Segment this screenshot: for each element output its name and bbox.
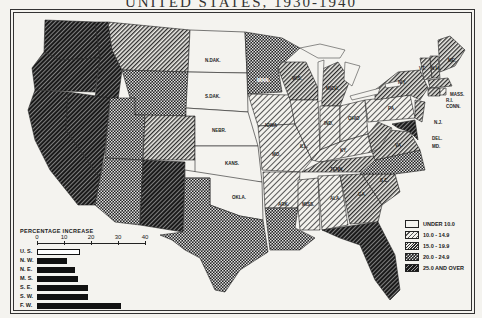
bar-label: N. E.: [20, 266, 32, 273]
legend-swatch: [405, 231, 419, 239]
label-minn: MINN.: [257, 78, 270, 83]
label-ga: GA.: [358, 192, 366, 197]
label-del: DEL.: [432, 136, 442, 141]
legend-swatch: [405, 253, 419, 261]
x-tick-label: 30: [115, 234, 122, 240]
label-nebr: NEBR.: [212, 128, 226, 133]
label-nh: N.H.: [431, 66, 440, 71]
state-ri: [440, 88, 446, 95]
state-me: [438, 36, 465, 72]
state-ariz: [95, 158, 143, 225]
state-mass: [428, 78, 452, 88]
state-nebr: [186, 108, 258, 146]
bar: [37, 303, 121, 309]
state-nmex: [140, 160, 185, 232]
bar: [37, 276, 78, 282]
x-tick: [145, 241, 146, 245]
bar-row-se: S. E.: [18, 284, 158, 291]
x-tick-label: 10: [61, 234, 68, 240]
x-tick: [64, 241, 65, 245]
label-me: ME.: [448, 58, 456, 63]
label-ill: ILL.: [300, 144, 308, 149]
legend-item-25-over: 25.0 AND OVER: [405, 263, 477, 274]
bar-row-sw: S. W.: [18, 293, 158, 300]
bar-row-ms: M. S.: [18, 275, 158, 282]
state-nj: [415, 100, 425, 122]
x-tick: [37, 241, 38, 245]
bar-label: S. E.: [20, 284, 32, 291]
legend-label: 10.0 - 14.9: [423, 232, 449, 238]
legend-item-20-24: 20.0 - 24.9: [405, 252, 477, 263]
state-wis: [278, 62, 318, 100]
state-mont: [108, 22, 190, 72]
bar-row-fw: F. W.: [18, 302, 158, 309]
label-sdak: S.DAK.: [205, 94, 220, 99]
bar: [37, 249, 80, 255]
bar-label: N. W.: [20, 257, 33, 264]
bar-label: S. W.: [20, 293, 33, 300]
legend-item-15-19: 15.0 - 19.9: [405, 241, 477, 252]
legend-label: UNDER 10.0: [423, 221, 455, 227]
bar-row-nw: N. W.: [18, 257, 158, 264]
label-ohio: OHIO: [348, 116, 360, 121]
label-ala: ALA.: [330, 196, 341, 201]
state-conn: [428, 88, 440, 96]
label-vt: VT.: [419, 66, 426, 71]
state-ny: [375, 70, 428, 100]
legend-label: 25.0 AND OVER: [423, 265, 464, 271]
label-nj: N.J.: [434, 120, 442, 125]
legend-item-under-10: UNDER 10.0: [405, 219, 477, 230]
label-tenn: TENN.: [330, 167, 344, 172]
legend-swatch: [405, 220, 419, 228]
label-ri: R.I.: [446, 98, 453, 103]
bar-label: F. W.: [20, 302, 32, 309]
bar-label: M. S.: [20, 275, 33, 282]
label-mass: MASS.: [450, 92, 464, 97]
state-colo: [143, 115, 195, 160]
x-tick: [118, 241, 119, 245]
state-sdak: [186, 72, 248, 112]
label-okla: OKLA.: [232, 195, 246, 200]
x-tick: [91, 241, 92, 245]
state-ndak: [188, 30, 247, 73]
label-sc: S.C.: [380, 178, 389, 183]
label-ndak: N.DAK.: [205, 58, 221, 63]
bar: [37, 294, 88, 300]
legend-label: 20.0 - 24.9: [423, 254, 449, 260]
bar-row-ne: N. E.: [18, 266, 158, 273]
label-iowa: IOWA: [265, 123, 278, 128]
bar: [37, 267, 75, 273]
bar-row-us: U. S.: [18, 248, 158, 255]
label-kans: KANS.: [225, 161, 239, 166]
label-ny: N.Y.: [398, 80, 406, 85]
label-miss: MISS.: [302, 202, 314, 207]
x-tick-label: 0: [35, 234, 38, 240]
label-ky: KY.: [340, 148, 347, 153]
label-ark: ARK.: [278, 202, 289, 207]
percentage-increase-chart: PERCENTAGE INCREASE 0 10 20 30 40 U. S. …: [18, 228, 158, 310]
legend-swatch: [405, 242, 419, 250]
label-conn: CONN.: [446, 104, 461, 109]
legend-label: 15.0 - 19.9: [423, 243, 449, 249]
x-tick-label: 20: [88, 234, 95, 240]
label-pa: PA.: [388, 106, 395, 111]
label-wis: WIS.: [292, 76, 302, 81]
legend-swatch: [405, 264, 419, 272]
state-wash: [44, 20, 100, 60]
label-ind: IND.: [324, 121, 333, 126]
bar: [37, 285, 88, 291]
chart-title: PERCENTAGE INCREASE: [20, 228, 93, 234]
state-fla: [322, 222, 400, 300]
bar: [37, 258, 67, 264]
label-md: MD.: [432, 144, 440, 149]
legend-item-10-14: 10.0 - 14.9: [405, 230, 477, 241]
bar-label: U. S.: [20, 248, 32, 255]
lake-superior: [300, 44, 345, 58]
x-tick-label: 40: [142, 234, 149, 240]
state-iowa: [248, 94, 295, 126]
label-mich: MICH.: [326, 86, 339, 91]
label-va: VA.: [395, 143, 402, 148]
label-mo: MO.: [272, 152, 281, 157]
map-legend: UNDER 10.0 10.0 - 14.9 15.0 - 19.9 20.0 …: [405, 219, 477, 274]
